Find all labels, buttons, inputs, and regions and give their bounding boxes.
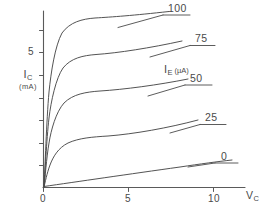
y-tick-label-5: 5	[28, 47, 34, 57]
y-axis-symbol-subscript: C	[27, 73, 32, 82]
plot-canvas	[0, 0, 268, 213]
curve-ie-25	[44, 120, 198, 187]
curve-ie-75	[44, 41, 182, 187]
leader-line-50	[148, 85, 185, 96]
y-axis-title-line1: IC	[14, 69, 42, 81]
x-tick-label-5: 5	[125, 194, 131, 204]
curve-label-100: 100	[168, 3, 187, 14]
y-axis-title: IC (mA)	[14, 69, 42, 91]
legend-annotation-ie: IE(µA)	[164, 60, 189, 76]
curve-ie-100	[44, 12, 169, 188]
leader-line-100	[118, 15, 163, 28]
curve-label-75: 75	[195, 33, 207, 44]
curve-label-50: 50	[190, 73, 202, 84]
leader-line-75	[150, 46, 190, 58]
x-axis-symbol-subscript: C	[253, 194, 258, 203]
x-axis-title: VC	[246, 190, 259, 202]
curve-ie-0	[44, 160, 232, 187]
x-tick-label-0: 0	[40, 194, 46, 204]
x-tick-label-10: 10	[208, 194, 220, 204]
curve-label-0: 0	[221, 151, 227, 162]
curve-ie-50	[44, 79, 188, 187]
curve-label-25: 25	[205, 112, 217, 123]
y-axis-unit: (mA)	[14, 83, 42, 91]
transistor-characteristic-curves-figure: 100 75 50 25 0 IE(µA) IC (mA) 5 0 5 10 V…	[0, 0, 268, 213]
legend-unit: (µA)	[174, 66, 188, 75]
legend-symbol-subscript: E	[167, 68, 172, 77]
